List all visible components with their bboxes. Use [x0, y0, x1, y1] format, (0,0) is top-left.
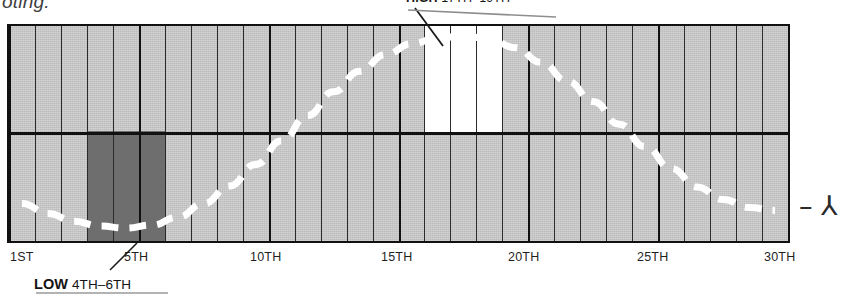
chart-plot-area	[7, 24, 790, 243]
handwritten-tail-mark: – ⅄	[799, 192, 838, 219]
biorhythm-chart-figure: oting. HIGH 17TH–19TH 1ST5TH10TH15TH20TH…	[0, 0, 843, 304]
axis-tick-label: 5TH	[124, 250, 148, 264]
low-annotation-label: LOW 4TH–6TH	[34, 276, 131, 292]
high-underline-squiggle	[408, 10, 556, 17]
biorhythm-wave-line	[9, 26, 790, 243]
high-annotation-label: HIGH 17TH–19TH	[406, 0, 510, 5]
wave-path	[22, 36, 775, 228]
high-annotation-range: 17TH–19TH	[438, 0, 511, 5]
day-gridline	[788, 26, 790, 241]
top-caption-text: oting.	[2, 0, 50, 13]
axis-tick-label: 10TH	[250, 250, 281, 264]
axis-tick-label: 25TH	[637, 250, 668, 264]
low-annotation-strong: LOW	[34, 276, 68, 292]
axis-tick-label: 20TH	[508, 250, 539, 264]
high-annotation-strong: HIGH	[406, 0, 438, 5]
axis-tick-label: 15TH	[381, 250, 412, 264]
axis-tick-label: 1ST	[10, 250, 34, 264]
low-annotation-range: 4TH–6TH	[68, 277, 131, 292]
axis-tick-label: 30TH	[764, 250, 795, 264]
